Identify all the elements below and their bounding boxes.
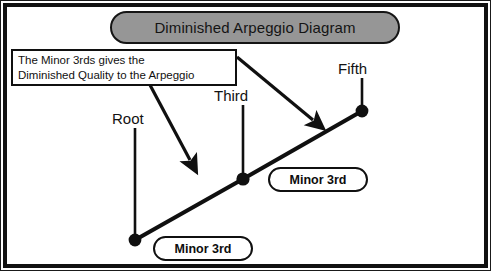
- interval-pill-third-to-fifth: Minor 3rd: [268, 167, 368, 192]
- node-dot-root: [129, 234, 142, 247]
- diagram-canvas: Diminished Arpeggio Diagram The Minor 3r…: [0, 0, 491, 271]
- diagram-title-pill: Diminished Arpeggio Diagram: [110, 11, 400, 44]
- node-label-third: Third: [214, 87, 248, 104]
- interval-pill-lower-text: Minor 3rd: [175, 242, 232, 256]
- interval-pill-root-to-third: Minor 3rd: [153, 236, 253, 261]
- callout-annotation-box: The Minor 3rds gives the Diminished Qual…: [11, 49, 237, 86]
- node-dot-fifth: [356, 105, 369, 118]
- callout-arrow-left: [150, 85, 190, 160]
- diagram-title-text: Diminished Arpeggio Diagram: [154, 19, 355, 36]
- callout-line-1: The Minor 3rds gives the: [18, 53, 231, 68]
- node-label-fifth: Fifth: [338, 60, 367, 77]
- callout-arrow-right: [237, 57, 313, 120]
- callout-line-2: Diminished Quality to the Arpeggio: [18, 68, 231, 83]
- interval-pill-upper-text: Minor 3rd: [290, 173, 347, 187]
- node-label-root: Root: [112, 110, 144, 127]
- node-dot-third: [236, 172, 249, 185]
